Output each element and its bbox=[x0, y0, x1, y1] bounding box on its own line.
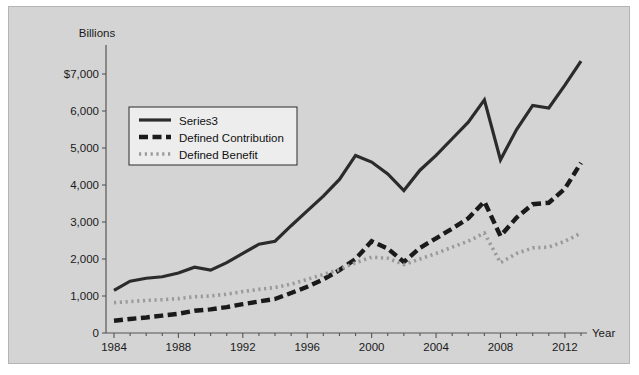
x-tick-label: 1984 bbox=[101, 341, 127, 353]
x-tick-label: 2004 bbox=[423, 341, 449, 353]
y-tick-label: 0 bbox=[93, 327, 99, 339]
y-tick-label: 5,000 bbox=[70, 142, 99, 154]
y-tick-label: $7,000 bbox=[64, 68, 99, 80]
y-tick-label: 3,000 bbox=[70, 216, 99, 228]
x-axis-tick-labels: 19841988199219962000200420082012 bbox=[101, 341, 577, 353]
x-tick-label: 2000 bbox=[359, 341, 385, 353]
y-tick-label: 2,000 bbox=[70, 253, 99, 265]
x-tick-label: 2012 bbox=[552, 341, 578, 353]
y-tick-label: 6,000 bbox=[70, 105, 99, 117]
x-axis-title: Year bbox=[592, 327, 615, 339]
legend-label-defined-benefit: Defined Benefit bbox=[179, 149, 258, 161]
series-line-defined-benefit bbox=[114, 233, 581, 303]
legend-label-series3: Series3 bbox=[179, 115, 218, 127]
line-chart: Billions 01,0002,0003,0004,0005,0006,000… bbox=[9, 7, 631, 365]
y-axis-tick-labels: 01,0002,0003,0004,0005,0006,000$7,000 bbox=[64, 68, 99, 339]
chart-legend: Series3Defined ContributionDefined Benef… bbox=[129, 107, 297, 165]
data-series-group bbox=[114, 61, 581, 321]
x-tick-label: 1992 bbox=[230, 341, 256, 353]
y-axis-unit-label: Billions bbox=[79, 27, 116, 39]
x-tick-label: 1996 bbox=[294, 341, 320, 353]
x-tick-label: 2008 bbox=[488, 341, 514, 353]
x-tick-label: 1988 bbox=[166, 341, 192, 353]
y-tick-label: 1,000 bbox=[70, 290, 99, 302]
chart-frame: Billions 01,0002,0003,0004,0005,0006,000… bbox=[8, 6, 630, 364]
y-tick-label: 4,000 bbox=[70, 179, 99, 191]
legend-label-defined-contribution: Defined Contribution bbox=[179, 132, 284, 144]
